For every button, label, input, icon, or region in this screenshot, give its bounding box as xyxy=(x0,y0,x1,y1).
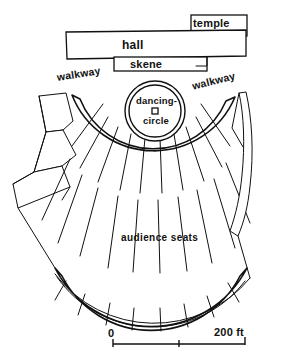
label-scale-start: 0 xyxy=(108,328,114,339)
label-dancing-circle-line2: circle xyxy=(143,116,169,126)
left-annex-lower xyxy=(13,166,70,208)
label-temple: temple xyxy=(193,18,230,29)
scale-bar xyxy=(113,337,245,347)
right-wing-group xyxy=(230,92,252,236)
hall-rect xyxy=(66,30,246,59)
plan-drawing xyxy=(0,0,287,363)
label-scale-end: 200 ft xyxy=(214,327,244,338)
label-dancing-circle-line1: dancing- xyxy=(136,96,177,106)
cavea-left-edge xyxy=(18,208,55,268)
altar-square xyxy=(152,108,158,114)
label-hall: hall xyxy=(122,39,143,51)
left-annex-group xyxy=(13,93,76,208)
cavea-outer-arc xyxy=(55,274,250,323)
diazoma-lower-band xyxy=(55,268,247,330)
label-audience-seats: audience seats xyxy=(121,233,198,243)
left-annex-upper xyxy=(39,93,73,132)
label-skene: skene xyxy=(130,59,162,70)
right-wing-sliver xyxy=(230,92,252,236)
theater-plan-figure: temple hall skene walkway walkway dancin… xyxy=(0,0,287,363)
